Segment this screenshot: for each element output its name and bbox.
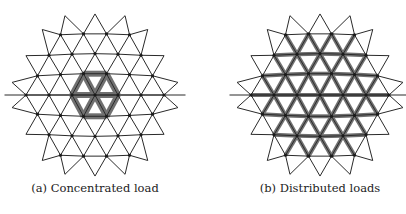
cable-member <box>355 95 367 115</box>
cable-member <box>332 116 344 136</box>
boundary-triangle <box>61 16 84 35</box>
node <box>330 115 333 118</box>
cable-member <box>130 35 142 56</box>
node <box>353 154 356 157</box>
node <box>318 93 321 96</box>
cable-member <box>95 54 107 74</box>
cable-member <box>343 35 355 54</box>
node <box>82 115 85 118</box>
boundary-triangle <box>251 55 274 76</box>
cable-member <box>38 76 50 95</box>
caption-b: (b) Distributed loads <box>220 181 406 195</box>
node <box>59 154 62 157</box>
boundary-triangle <box>26 55 49 76</box>
cable-member <box>107 54 119 74</box>
node <box>272 93 275 96</box>
cable-member <box>309 74 321 95</box>
cable-member <box>49 35 61 56</box>
cable-member <box>141 95 153 114</box>
cable-member <box>274 35 286 56</box>
node <box>105 32 108 35</box>
cable-member <box>286 155 309 156</box>
node <box>36 113 39 116</box>
cable-member <box>320 116 332 136</box>
node <box>318 52 321 55</box>
cable-member <box>355 75 367 95</box>
cable-member <box>309 34 321 54</box>
node <box>353 73 356 76</box>
node <box>353 33 356 36</box>
node <box>364 93 367 96</box>
cable-member <box>332 54 344 74</box>
node <box>284 33 287 36</box>
cable-member <box>84 74 96 95</box>
node <box>82 155 85 158</box>
cable-member <box>332 34 355 35</box>
node <box>47 133 50 136</box>
cable-member <box>107 34 119 54</box>
node <box>307 155 310 158</box>
node <box>139 93 142 96</box>
cable-member <box>118 54 130 74</box>
node <box>47 54 50 57</box>
node <box>116 53 119 56</box>
node <box>284 73 287 76</box>
cable-member <box>61 95 73 115</box>
cable-member <box>286 34 309 35</box>
node <box>59 73 62 76</box>
boundary-triangle <box>286 155 309 174</box>
cable-member <box>118 75 130 95</box>
cable-member <box>320 136 332 156</box>
cable-member <box>84 54 96 74</box>
node <box>116 134 119 137</box>
node <box>272 133 275 136</box>
boundary-triangle <box>378 95 403 114</box>
node <box>151 74 154 77</box>
cable-member <box>61 35 73 54</box>
cable-member <box>332 136 344 156</box>
node <box>307 72 310 75</box>
panel-a-concentrated-load <box>5 14 186 176</box>
cable-member <box>309 95 321 116</box>
cable-member <box>130 135 142 156</box>
cable-member <box>343 115 355 135</box>
cable-member <box>118 54 141 55</box>
cable-member <box>343 95 355 115</box>
cable-member <box>130 115 142 134</box>
node <box>295 93 298 96</box>
node <box>70 53 73 56</box>
cable-member <box>286 35 298 54</box>
node <box>59 114 62 117</box>
cable-member <box>274 95 286 115</box>
boundary-triangle <box>286 16 309 35</box>
boundary-triangle <box>332 155 355 174</box>
cable-member <box>84 116 96 136</box>
cable-member <box>84 95 96 116</box>
cable-member <box>72 34 84 54</box>
cable-member <box>118 35 130 54</box>
cable-member <box>38 55 50 76</box>
cable-member <box>49 54 72 55</box>
boundary-triangle <box>332 16 355 35</box>
cable-member <box>61 75 73 95</box>
node <box>93 52 96 55</box>
cable-member <box>130 75 153 76</box>
cable-member <box>320 54 332 74</box>
cable-member <box>274 115 286 134</box>
node <box>139 133 142 136</box>
cable-member <box>61 54 73 74</box>
node <box>105 72 108 75</box>
cable-member <box>355 135 367 156</box>
node <box>307 115 310 118</box>
cable-member <box>95 116 107 136</box>
cable-member <box>263 55 275 76</box>
cable-member <box>297 136 309 156</box>
cable-member <box>61 115 73 135</box>
cable-member <box>95 136 107 156</box>
cable-member <box>72 136 84 156</box>
cable-member <box>343 75 355 95</box>
cable-member <box>332 95 344 116</box>
cable-member <box>343 54 355 74</box>
boundary-triangle <box>366 114 389 135</box>
cable-member <box>49 115 61 134</box>
